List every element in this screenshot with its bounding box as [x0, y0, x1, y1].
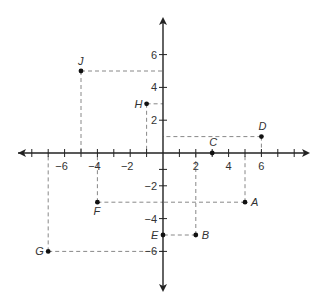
point-h — [144, 101, 149, 106]
point-label: J — [77, 55, 84, 67]
point-label: A — [250, 196, 258, 208]
y-tick-label: 2 — [151, 114, 157, 126]
axes — [18, 17, 310, 292]
point-e — [161, 233, 166, 238]
y-tick-label: −2 — [144, 180, 157, 192]
coordinate-plane: −6−4−2246642−2−4−6 ABCDEFGHJ — [0, 0, 323, 304]
point-b — [193, 233, 198, 238]
point-j — [79, 69, 84, 74]
point-label: G — [35, 245, 44, 257]
point-g — [46, 249, 51, 254]
y-tick-label: 4 — [151, 81, 157, 93]
point-label: C — [209, 136, 217, 148]
point-d — [259, 134, 264, 139]
x-tick-label: 6 — [258, 160, 264, 172]
point-label: B — [202, 229, 209, 241]
y-tick-label: 6 — [151, 49, 157, 61]
x-tick-label: 4 — [226, 160, 232, 172]
x-tick-label: −6 — [55, 160, 68, 172]
x-tick-label: −4 — [88, 160, 101, 172]
y-tick-label: −4 — [144, 213, 157, 225]
point-label: F — [93, 205, 101, 217]
point-a — [243, 200, 248, 205]
y-tick-label: −6 — [144, 245, 157, 257]
point-label: H — [135, 98, 143, 110]
point-c — [210, 151, 215, 156]
point-label: E — [151, 229, 159, 241]
x-tick-label: −2 — [121, 160, 134, 172]
point-f — [95, 200, 100, 205]
point-label: D — [258, 120, 266, 132]
x-tick-label: 2 — [193, 160, 199, 172]
